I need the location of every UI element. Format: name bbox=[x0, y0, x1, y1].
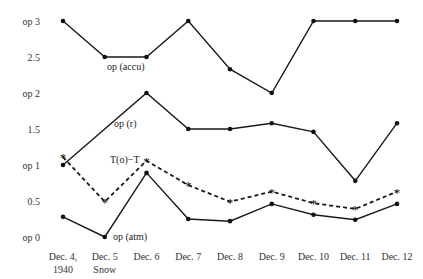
data-point-dot-icon bbox=[269, 121, 274, 126]
x-tick-label: Dec. 9 bbox=[259, 251, 285, 262]
x-tick-label: Dec. 5 bbox=[92, 251, 118, 262]
x-tick-label: Dec. 12 bbox=[381, 251, 412, 262]
y-tick-label: 1.5 bbox=[28, 124, 41, 135]
series-line bbox=[63, 21, 397, 93]
label-op-atm: op (atm) bbox=[113, 231, 147, 243]
data-point-dot-icon bbox=[269, 202, 274, 207]
series-group: ********* bbox=[60, 19, 401, 240]
data-point-asterisk-icon: * bbox=[185, 178, 192, 193]
data-point-dot-icon bbox=[353, 179, 358, 184]
data-point-asterisk-icon: * bbox=[394, 185, 401, 200]
y-tick-label: 2.5 bbox=[28, 52, 41, 63]
line-chart: op 32.5op 21.5op 10.5op 0 Dec. 4,1940Dec… bbox=[0, 0, 423, 279]
data-point-dot-icon bbox=[311, 212, 316, 217]
y-tick-label: op 0 bbox=[23, 232, 41, 243]
data-point-dot-icon bbox=[353, 217, 358, 222]
data-point-asterisk-icon: * bbox=[227, 195, 234, 210]
data-point-dot-icon bbox=[228, 67, 233, 72]
data-point-asterisk-icon: * bbox=[143, 154, 150, 169]
label-t-diff: T(o)−T bbox=[110, 154, 140, 166]
data-point-dot-icon bbox=[311, 19, 316, 24]
data-point-dot-icon bbox=[186, 127, 191, 132]
x-tick-label: Dec. 11 bbox=[340, 251, 371, 262]
data-point-dot-icon bbox=[269, 91, 274, 96]
label-op-accu: op (accu) bbox=[107, 61, 144, 73]
data-point-dot-icon bbox=[144, 171, 149, 176]
data-point-asterisk-icon: * bbox=[310, 196, 317, 211]
y-tick-label: op 3 bbox=[23, 16, 41, 27]
y-tick-label: op 2 bbox=[23, 88, 41, 99]
data-point-dot-icon bbox=[186, 19, 191, 24]
x-tick-label: Dec. 4, bbox=[49, 251, 78, 262]
series-labels: op (accu) op (r) T(o)−T op (atm) bbox=[107, 61, 147, 243]
data-point-asterisk-icon: * bbox=[352, 202, 359, 217]
series-0 bbox=[61, 19, 400, 96]
y-tick-label: 0.5 bbox=[28, 196, 41, 207]
data-point-dot-icon bbox=[228, 127, 233, 132]
x-tick-label: Snow bbox=[93, 264, 117, 275]
x-tick-label: Dec. 8 bbox=[217, 251, 243, 262]
data-point-dot-icon bbox=[395, 19, 400, 24]
data-point-asterisk-icon: * bbox=[269, 185, 276, 200]
data-point-dot-icon bbox=[228, 219, 233, 224]
data-point-dot-icon bbox=[102, 235, 107, 240]
data-point-asterisk-icon: * bbox=[102, 195, 109, 210]
data-point-dot-icon bbox=[102, 55, 107, 60]
label-op-r: op (r) bbox=[114, 118, 137, 130]
data-point-dot-icon bbox=[144, 55, 149, 60]
data-point-dot-icon bbox=[186, 217, 191, 222]
data-point-dot-icon bbox=[311, 130, 316, 135]
data-point-dot-icon bbox=[395, 121, 400, 126]
data-point-dot-icon bbox=[395, 202, 400, 207]
x-tick-label: Dec. 10 bbox=[298, 251, 329, 262]
series-line bbox=[63, 93, 397, 181]
data-point-dot-icon bbox=[61, 215, 66, 220]
x-tick-label: 1940 bbox=[53, 264, 73, 275]
data-point-dot-icon bbox=[144, 91, 149, 96]
x-axis: Dec. 4,1940Dec. 5SnowDec. 6Dec. 7Dec. 8D… bbox=[49, 251, 413, 275]
y-axis: op 32.5op 21.5op 10.5op 0 bbox=[23, 16, 41, 243]
data-point-dot-icon bbox=[353, 19, 358, 24]
series-1 bbox=[61, 91, 400, 183]
x-tick-label: Dec. 6 bbox=[133, 251, 159, 262]
data-point-dot-icon bbox=[61, 19, 66, 24]
x-tick-label: Dec. 7 bbox=[175, 251, 201, 262]
y-tick-label: op 1 bbox=[23, 160, 41, 171]
data-point-asterisk-icon: * bbox=[60, 150, 67, 165]
